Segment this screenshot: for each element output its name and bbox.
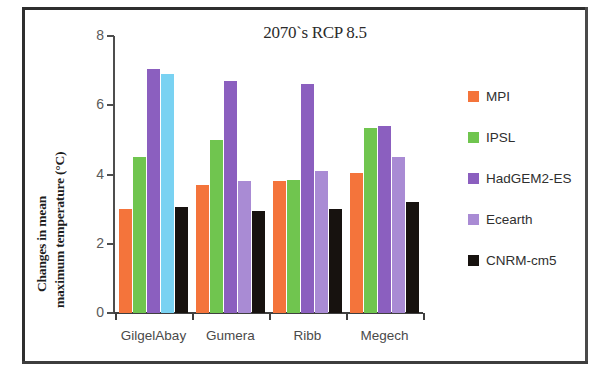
x-tick-mark — [346, 313, 348, 320]
legend-swatch-icon — [468, 255, 479, 266]
bar — [119, 209, 133, 313]
bar — [196, 185, 210, 313]
bar — [350, 173, 364, 313]
legend-label: HadGEM2-ES — [486, 170, 572, 187]
bar — [175, 207, 189, 313]
bar — [147, 69, 161, 313]
bar — [252, 211, 266, 313]
bar — [315, 171, 329, 313]
legend-label: IPSL — [486, 129, 515, 146]
bar — [273, 181, 287, 313]
bar — [301, 84, 315, 313]
legend-swatch-icon — [468, 214, 479, 225]
x-tick-mark — [192, 313, 194, 320]
bar — [238, 181, 252, 313]
x-category-label: Megech — [336, 328, 433, 343]
bar — [161, 74, 175, 313]
bar — [329, 209, 343, 313]
scanned-chart-page: 2070`s RCP 8.5 Changes in mean maximum t… — [0, 0, 597, 366]
bar-chart: 2070`s RCP 8.5 Changes in mean maximum t… — [0, 0, 597, 366]
legend-label: MPI — [486, 88, 510, 105]
legend-label: Ecearth — [486, 211, 533, 228]
x-tick-mark — [269, 313, 271, 320]
x-tick-mark — [423, 313, 425, 320]
bar — [287, 180, 301, 313]
bar — [210, 140, 224, 313]
legend-label: CNRM-cm5 — [486, 252, 557, 269]
legend-swatch-icon — [468, 173, 479, 184]
bar — [364, 128, 378, 313]
legend-swatch-icon — [468, 132, 479, 143]
bar — [392, 157, 406, 313]
bar — [224, 81, 238, 313]
legend-swatch-icon — [468, 91, 479, 102]
x-tick-mark — [115, 313, 117, 320]
bar — [133, 157, 147, 313]
bar — [406, 202, 420, 313]
bar — [378, 126, 392, 313]
